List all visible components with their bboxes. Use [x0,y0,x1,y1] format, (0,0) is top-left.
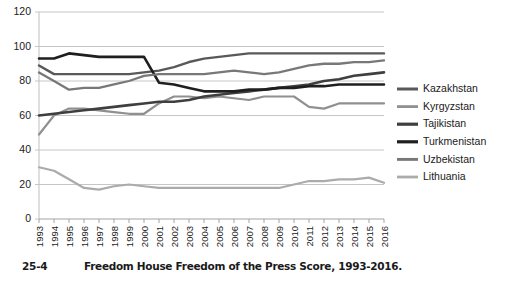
x-axis-tick-label: 1994 [49,226,60,247]
y-axis-tick-label: 100 [13,40,31,52]
series-line-tajikistan [39,72,384,115]
x-axis-tick-label: 2003 [184,226,195,247]
x-axis-tick-label: 2004 [199,226,210,247]
x-axis-tick-label: 1993 [34,226,45,247]
x-axis-tick-label: 2007 [244,226,255,247]
series-line-lithuania [39,167,384,189]
figure-25-4: 0204060801001201993199419951996199719981… [0,0,514,286]
x-axis-tick-label: 1998 [109,226,120,247]
legend-label-kazakhstan: Kazakhstan [423,82,478,94]
x-axis-tick-label: 2006 [229,226,240,247]
legend-label-kyrgyzstan: Kyrgyzstan [423,100,475,112]
x-axis-tick-label: 1997 [94,226,105,247]
y-axis-tick-label: 0 [25,212,31,224]
x-axis-tick-label: 2013 [334,226,345,247]
x-axis-tick-label: 2000 [139,226,150,247]
x-axis-tick-label: 2015 [364,226,375,247]
legend-label-uzbekistan: Uzbekistan [423,153,475,165]
x-axis-tick-label: 2001 [154,226,165,247]
x-axis-tick-label: 2016 [379,226,390,247]
x-axis-tick-label: 2012 [319,226,330,247]
legend-label-turkmenistan: Turkmenistan [423,135,486,147]
legend-label-lithuania: Lithuania [423,170,466,182]
x-axis-tick-label: 2011 [304,226,315,246]
x-axis-tick-label: 2002 [169,226,180,247]
legend-label-tajikistan: Tajikistan [423,117,466,129]
figure-caption: 25-4 Freedom House Freedom of the Press … [0,260,514,286]
y-axis-tick-label: 40 [19,143,31,155]
x-axis-tick-label: 1995 [64,226,75,247]
x-axis-tick-label: 2005 [214,226,225,247]
y-axis-tick-label: 20 [19,178,31,190]
x-axis-tick-label: 1999 [124,226,135,247]
y-axis-tick-label: 60 [19,109,31,121]
caption-number: 25-4 [22,260,84,272]
caption-text: Freedom House Freedom of the Press Score… [84,260,402,272]
x-axis-tick-label: 2014 [349,226,360,247]
chart-area: 0204060801001201993199419951996199719981… [0,0,514,258]
line-chart: 0204060801001201993199419951996199719981… [0,0,514,258]
x-axis-tick-label: 2009 [274,226,285,247]
x-axis-tick-label: 2008 [259,226,270,247]
y-axis-tick-label: 120 [13,5,31,17]
x-axis-tick-label: 2010 [289,226,300,247]
y-axis-tick-label: 80 [19,74,31,86]
x-axis-tick-label: 1996 [79,226,90,247]
